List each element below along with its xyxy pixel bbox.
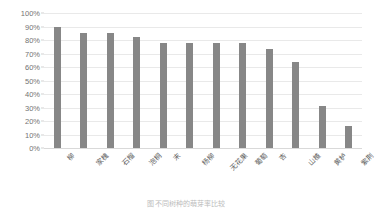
bar-item bbox=[309, 13, 336, 148]
y-axis-tick-label: 0% bbox=[29, 144, 40, 153]
y-axis-tick-label: 10% bbox=[25, 130, 40, 139]
x-axis-tick-label: 无花果 bbox=[227, 150, 249, 172]
x-axis-tick-label: 葡萄 bbox=[252, 150, 269, 167]
y-axis-tick-mark bbox=[41, 40, 44, 41]
x-axis-tick-label: 柳 bbox=[64, 150, 76, 162]
bar bbox=[239, 43, 246, 148]
x-axis-tick-label: 末 bbox=[170, 150, 182, 162]
bar-item bbox=[230, 13, 257, 148]
y-axis-tick-mark bbox=[41, 148, 44, 149]
bar bbox=[292, 62, 299, 148]
y-axis-tick-mark bbox=[41, 53, 44, 54]
y-axis-tick-label: 100% bbox=[21, 9, 40, 18]
x-axis-tick-label: 石榴 bbox=[119, 150, 136, 167]
bar-item bbox=[71, 13, 98, 148]
bar-item bbox=[256, 13, 283, 148]
bar bbox=[54, 27, 61, 149]
bar-item bbox=[44, 13, 71, 148]
y-axis-tick-label: 70% bbox=[25, 49, 40, 58]
x-axis-tick-label: 山楂 bbox=[305, 150, 322, 167]
y-axis-tick-mark bbox=[41, 13, 44, 14]
bar-item bbox=[283, 13, 310, 148]
bar bbox=[133, 37, 140, 148]
y-axis-tick-mark bbox=[41, 134, 44, 135]
y-axis-tick-label: 50% bbox=[25, 76, 40, 85]
bar-item bbox=[203, 13, 230, 148]
x-axis-tick-label: 杏 bbox=[276, 150, 288, 162]
plot-area bbox=[44, 13, 362, 148]
y-axis-tick-label: 20% bbox=[25, 117, 40, 126]
bar bbox=[213, 43, 220, 148]
bar bbox=[160, 43, 167, 148]
bar-item bbox=[97, 13, 124, 148]
bar-item bbox=[124, 13, 151, 148]
bar-series bbox=[44, 13, 362, 148]
y-axis-tick-label: 80% bbox=[25, 36, 40, 45]
y-axis-tick-mark bbox=[41, 121, 44, 122]
bar bbox=[266, 49, 273, 148]
y-axis-tick-label: 90% bbox=[25, 22, 40, 31]
bar bbox=[186, 43, 193, 148]
bar bbox=[80, 33, 87, 148]
bar-item bbox=[177, 13, 204, 148]
y-axis-tick-label: 30% bbox=[25, 103, 40, 112]
figure-caption: 图 不同树种的萌芽率比较 bbox=[0, 198, 372, 208]
y-axis-tick-label: 40% bbox=[25, 90, 40, 99]
y-axis-tick-label: 60% bbox=[25, 63, 40, 72]
x-axis-labels: 柳家槐石榴泡桐末杨柳无花果葡萄杏山楂黄栌紫荆 bbox=[44, 150, 362, 190]
bar bbox=[345, 126, 352, 148]
y-axis-tick-mark bbox=[41, 107, 44, 108]
x-axis-tick-label: 泡桐 bbox=[146, 150, 163, 167]
y-axis-tick-mark bbox=[41, 26, 44, 27]
y-axis-tick-mark bbox=[41, 67, 44, 68]
bar bbox=[107, 33, 114, 148]
x-axis-tick-label: 杨柳 bbox=[199, 150, 216, 167]
y-axis-tick-mark bbox=[41, 94, 44, 95]
bar-item bbox=[150, 13, 177, 148]
bar-item bbox=[336, 13, 363, 148]
y-axis-tick-mark bbox=[41, 80, 44, 81]
bar bbox=[319, 106, 326, 148]
x-axis-tick-label: 紫荆 bbox=[358, 150, 375, 167]
x-axis-tick-label: 黄栌 bbox=[331, 150, 348, 167]
x-axis-tick-label: 家槐 bbox=[93, 150, 110, 167]
